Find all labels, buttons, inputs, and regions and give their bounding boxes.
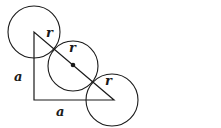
label-radius-top: r	[46, 25, 54, 40]
label-leg-vertical: a	[14, 69, 22, 84]
label-radius-middle: r	[69, 40, 77, 55]
label-leg-horizontal: a	[56, 104, 64, 119]
diagram-canvas: r r r a a	[0, 0, 221, 128]
label-radius-bottom: r	[105, 73, 113, 88]
center-dot	[71, 63, 76, 68]
